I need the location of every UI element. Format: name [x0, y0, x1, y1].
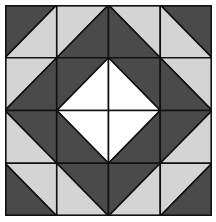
quilt-block [5, 5, 212, 216]
quilt-svg [5, 5, 212, 216]
